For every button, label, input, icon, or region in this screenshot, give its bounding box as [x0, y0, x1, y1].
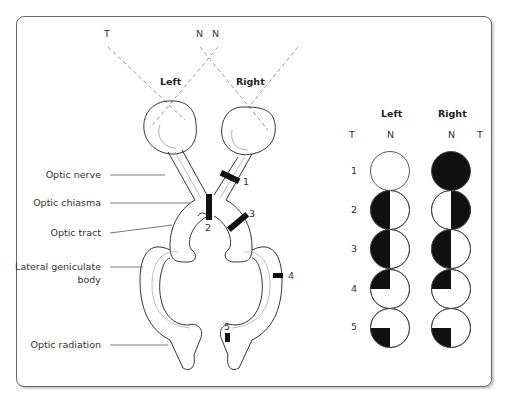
- fields-header-right: Right: [438, 108, 467, 119]
- label-optic-radiation: Optic radiation: [30, 339, 101, 350]
- field-row-number-3: 3: [351, 243, 357, 254]
- visual-field-circles: [370, 152, 471, 349]
- field-row-number-4: 4: [351, 283, 357, 294]
- optic-radiations: [140, 247, 282, 370]
- leader-lines: [110, 175, 190, 345]
- field-label-nasal-right: N: [212, 28, 219, 39]
- field-row-number-2: 2: [351, 204, 357, 215]
- label-optic-tract: Optic tract: [50, 227, 101, 238]
- field-label-nasal-left: N: [196, 28, 203, 39]
- field-row-number-1: 1: [351, 165, 357, 176]
- field-label-temporal: T: [104, 28, 110, 39]
- right-eye: [222, 107, 276, 155]
- field-lines: [108, 47, 298, 130]
- fields-header-n2: N: [448, 129, 455, 140]
- label-optic-chiasma: Optic chiasma: [33, 197, 101, 208]
- lesion-number-4: 4: [288, 270, 294, 281]
- lesion-number-1: 1: [243, 176, 249, 187]
- eye-label-right: Right: [236, 76, 265, 87]
- eye-label-left: Left: [160, 76, 181, 87]
- fields-header-left: Left: [381, 108, 402, 119]
- field-row-number-5: 5: [351, 321, 357, 332]
- fields-header-n1: N: [387, 129, 394, 140]
- label-lateral-geniculate-body: body: [78, 274, 102, 285]
- fields-header-t2: T: [477, 129, 483, 140]
- fields-header-t1: T: [349, 129, 355, 140]
- label-optic-nerve: Optic nerve: [46, 169, 101, 180]
- label-lateral-geniculate: Lateral geniculate: [15, 261, 101, 272]
- lesion-number-3: 3: [249, 208, 255, 219]
- optic-nerves: [168, 150, 252, 200]
- lesion-markers: [206, 170, 283, 342]
- lesion-number-5: 5: [224, 321, 230, 332]
- lesion-number-2: 2: [205, 222, 211, 233]
- left-eye: [144, 101, 197, 154]
